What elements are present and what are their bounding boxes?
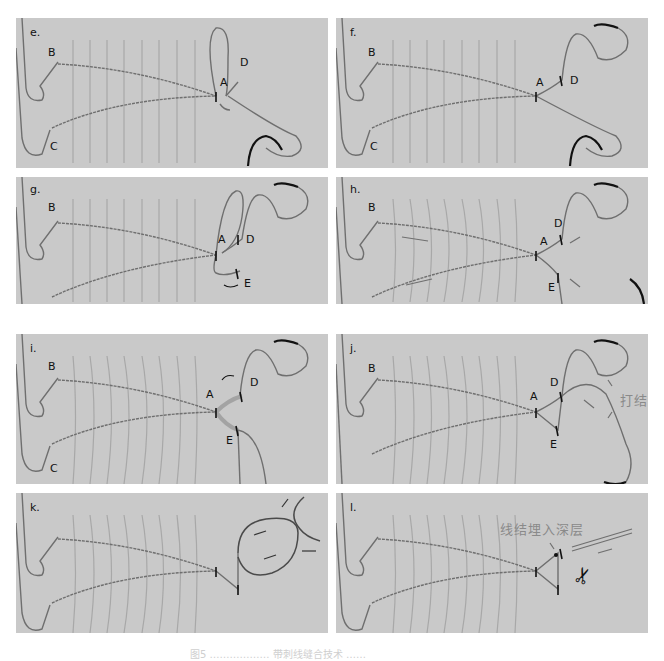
- point-label-e: E: [550, 438, 557, 451]
- panel-f: f. B C A D: [336, 18, 648, 168]
- point-label-c: C: [370, 140, 378, 153]
- panel-i: i. B C A D E: [16, 334, 328, 484]
- suture-diagram-e: [16, 18, 328, 168]
- suture-diagram-k: [16, 493, 328, 633]
- point-label-a: A: [530, 390, 538, 403]
- point-label-b: B: [368, 362, 376, 375]
- suture-diagram-h: [336, 177, 648, 304]
- point-label-b: B: [48, 360, 56, 373]
- point-label-b: B: [368, 46, 376, 59]
- point-label-d: D: [240, 56, 248, 69]
- panel-label: g.: [30, 183, 40, 196]
- panel-h: h. B A D E: [336, 177, 648, 304]
- point-label-e: E: [244, 277, 251, 290]
- point-label-a: A: [220, 76, 228, 89]
- point-label-c: C: [50, 462, 58, 475]
- point-label-d: D: [246, 233, 254, 246]
- panel-l: ✂ l. 线结埋入深层: [336, 493, 648, 633]
- point-label-a: A: [540, 235, 548, 248]
- panel-e: e. B C A D: [16, 18, 328, 168]
- panel-label: j.: [350, 342, 357, 355]
- panel-label: k.: [30, 501, 40, 514]
- panel-g: g. B A D E: [16, 177, 328, 304]
- annotation-knot-buried: 线结埋入深层: [500, 519, 584, 538]
- annotation-tie-knot: 打结: [620, 390, 648, 409]
- point-label-b: B: [368, 201, 376, 214]
- panel-label: l.: [350, 501, 357, 514]
- suture-diagram-g: [16, 177, 328, 304]
- point-label-c: C: [50, 140, 58, 153]
- point-label-a: A: [218, 233, 226, 246]
- figure-caption: 图5 ……………… 带刺线缝合技术 ……: [190, 646, 366, 661]
- suture-diagram-f: [336, 18, 648, 168]
- suture-diagram-i: [16, 334, 328, 484]
- point-label-b: B: [48, 46, 56, 59]
- suture-diagram-j: [336, 334, 648, 484]
- suture-diagram-l: [336, 493, 648, 633]
- panel-label: e.: [30, 26, 40, 39]
- panel-j: j. B A D E 打结: [336, 334, 648, 484]
- panel-k: k.: [16, 493, 328, 633]
- point-label-a: A: [536, 76, 544, 89]
- point-label-b: B: [48, 201, 56, 214]
- point-label-e: E: [226, 434, 233, 447]
- point-label-d: D: [250, 376, 258, 389]
- point-label-a: A: [206, 388, 214, 401]
- point-label-d: D: [554, 217, 562, 230]
- panel-label: i.: [30, 342, 37, 355]
- panel-label: f.: [350, 26, 357, 39]
- point-label-d: D: [550, 376, 558, 389]
- point-label-e: E: [548, 281, 555, 294]
- panel-label: h.: [350, 183, 360, 196]
- point-label-d: D: [570, 74, 578, 87]
